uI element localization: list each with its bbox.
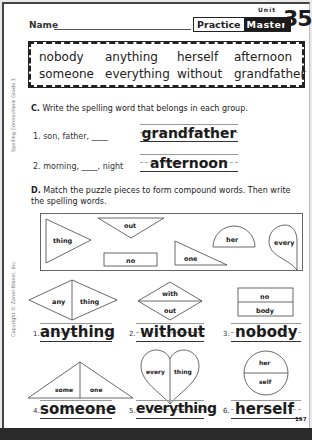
answer-field-d1[interactable]: anything xyxy=(40,323,112,342)
instruction-text: Write the spelling word that belongs in … xyxy=(42,104,247,113)
item-number: 5. xyxy=(129,407,136,415)
word: anything xyxy=(105,50,177,64)
part-body: body xyxy=(256,307,275,315)
answer-text: afternoon xyxy=(140,155,238,171)
piece-out: out xyxy=(124,222,136,230)
item-number: 1. xyxy=(33,330,40,338)
section-letter: D. xyxy=(31,186,41,195)
instruction-text: Match the puzzle pieces to form compound… xyxy=(31,186,290,206)
answer-text: herself xyxy=(231,400,301,418)
section-c-instruction: C. Write the spelling word that belongs … xyxy=(31,104,248,113)
part-any: any xyxy=(52,298,66,306)
answer-text: without xyxy=(136,323,204,341)
practice-label: Practice xyxy=(194,18,244,31)
answer-field-d4[interactable]: someone xyxy=(40,400,112,419)
piece-no: no xyxy=(126,257,136,265)
answer-field-d3[interactable]: nobody xyxy=(231,323,301,342)
spelling-word-box: nobody anything herself afternoon someon… xyxy=(28,41,305,88)
answer-text: nobody xyxy=(231,323,301,341)
practice-master-badge: Practice Master xyxy=(193,17,291,32)
right-triangle-piece xyxy=(175,241,227,265)
question-number: 2. xyxy=(33,162,41,171)
word: everything xyxy=(105,67,177,81)
answer-text: someone xyxy=(40,400,112,418)
part-her: her xyxy=(259,359,270,366)
piece-her: her xyxy=(226,236,239,244)
question-1: 1. son, father, ____ xyxy=(33,132,108,141)
item-number: 3. xyxy=(223,330,230,338)
piece-one: one xyxy=(184,255,198,263)
word: grandfather xyxy=(234,67,305,81)
section-letter: C. xyxy=(31,104,40,113)
section-d-instruction: D. Match the puzzle pieces to form compo… xyxy=(31,185,303,207)
question-prompt: son, father, ____ xyxy=(43,132,107,141)
item-number: 4. xyxy=(33,407,40,415)
part-out: out xyxy=(164,307,176,315)
item-number: 6. xyxy=(223,407,230,415)
word: someone xyxy=(39,67,105,81)
question-number: 1. xyxy=(33,132,41,141)
piece-every: every xyxy=(274,239,295,247)
piece-thing: thing xyxy=(53,237,73,245)
bottom-edge xyxy=(0,428,312,440)
series-credit: Spelling Connections Grade 1 xyxy=(10,78,16,152)
puzzle-pieces-box: thing out no one her every xyxy=(40,213,303,271)
unit-label: Unit xyxy=(258,6,276,13)
answer-field-2[interactable]: afternoon xyxy=(140,154,238,172)
part-with: with xyxy=(162,290,178,298)
word: nobody xyxy=(39,50,105,64)
answer-field-d6[interactable]: herself xyxy=(231,400,301,419)
part-one: one xyxy=(90,386,102,393)
word: without xyxy=(177,67,234,81)
half-heart-piece xyxy=(269,225,297,270)
unit-number: 35 xyxy=(283,6,312,31)
part-self: self xyxy=(259,378,272,385)
question-2: 2. morning, ____, night xyxy=(33,162,123,171)
answer-text: anything xyxy=(40,323,112,341)
answer-field-d5[interactable]: everything xyxy=(136,400,204,419)
question-prompt: morning, ____, night xyxy=(43,162,123,171)
part-thing: thing xyxy=(174,368,192,376)
item-number: 2. xyxy=(129,330,136,338)
page-number: 197 xyxy=(295,416,306,422)
part-no: no xyxy=(260,293,270,301)
word: afternoon xyxy=(234,50,305,64)
part-some: some xyxy=(55,386,73,393)
answer-field-1[interactable]: grandfather xyxy=(140,124,238,142)
answer-text: grandfather xyxy=(140,125,238,141)
answer-text: everything xyxy=(136,400,204,416)
part-thing: thing xyxy=(80,298,100,306)
answer-field-d2[interactable]: without xyxy=(136,323,204,342)
name-field[interactable] xyxy=(54,29,191,30)
part-every: every xyxy=(146,368,165,376)
word: herself xyxy=(177,50,234,64)
